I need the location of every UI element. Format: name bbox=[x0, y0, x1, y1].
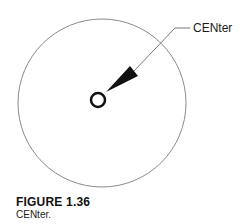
outer-circle bbox=[18, 19, 186, 187]
leader-arrowhead-icon bbox=[106, 66, 138, 92]
leader-line bbox=[134, 28, 190, 71]
callout-label: CENter bbox=[193, 21, 232, 35]
figure-number: FIGURE 1.36 bbox=[16, 195, 90, 209]
figure-caption: CENter. bbox=[16, 209, 51, 220]
center-marker-circle bbox=[91, 93, 105, 107]
